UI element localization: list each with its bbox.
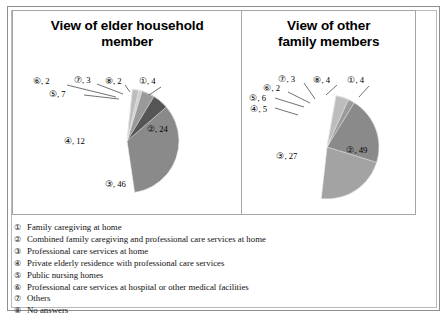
pie-chart-right: ⑦, 3 ⑧, 4 ①, 4 ⑥, 2 ⑤, 6 ④, 5 ②, 49 ③, 2… xyxy=(242,11,415,214)
pie-svg-right xyxy=(242,11,415,216)
legend-item: ⑦Others xyxy=(14,293,414,304)
chart-panel-elder-household: View of elder household member ⑥, 2 ⑦, 3… xyxy=(13,11,242,214)
legend-item-label: Professional care services at home xyxy=(27,246,414,256)
callout-right-5: ④, 5 xyxy=(250,105,267,114)
legend-item-number: ③ xyxy=(14,247,27,257)
callout-left-4: ⑤, 7 xyxy=(49,90,66,99)
legend-item-label: Combined family caregiving and professio… xyxy=(27,234,414,244)
legend-item: ③Professional care services at home xyxy=(14,246,414,257)
legend-item-number: ④ xyxy=(14,259,27,269)
callout-right-4: ⑤, 6 xyxy=(249,94,266,103)
legend-item-label: Family caregiving at home xyxy=(27,222,414,232)
legend-item: ①Family caregiving at home xyxy=(14,222,414,233)
inner-left-0: ②, 24 xyxy=(147,125,168,134)
legend-item-label: Professional care services at hospital o… xyxy=(27,282,414,292)
legend-item-number: ② xyxy=(14,235,27,245)
callout-left-1: ⑦, 3 xyxy=(74,76,91,85)
legend-item: ④Private elderly residence with professi… xyxy=(14,258,414,269)
legend-item: ⑥Professional care services at hospital … xyxy=(14,282,414,293)
legend-item-number: ⑤ xyxy=(14,271,27,281)
callout-right-3: ⑥, 2 xyxy=(263,84,280,93)
legend-item-number: ⑦ xyxy=(14,294,27,304)
legend-item-number: ⑥ xyxy=(14,283,27,293)
legend: ①Family caregiving at home②Combined fami… xyxy=(14,222,414,317)
legend-item-number: ① xyxy=(14,223,27,233)
callout-right-2: ①, 4 xyxy=(347,76,364,85)
callout-left-0: ⑥, 2 xyxy=(33,77,50,86)
legend-item: ⑧No answers xyxy=(14,305,414,316)
legend-item-label: No answers xyxy=(27,305,414,315)
chart-panel-other-family: View of other family members ⑦, 3 ⑧, 4 ①… xyxy=(242,11,415,214)
callout-left-2: ⑧, 2 xyxy=(105,77,122,86)
callout-right-0: ⑦, 3 xyxy=(278,75,295,84)
callout-left-3: ①, 4 xyxy=(139,77,156,86)
legend-item-number: ⑧ xyxy=(14,306,27,316)
inner-left-2: ③, 46 xyxy=(105,180,126,189)
charts-container: View of elder household member ⑥, 2 ⑦, 3… xyxy=(12,10,416,215)
legend-item-label: Public nursing homes xyxy=(27,270,414,280)
legend-item: ⑤Public nursing homes xyxy=(14,270,414,281)
legend-item: ②Combined family caregiving and professi… xyxy=(14,234,414,245)
pie-chart-left: ⑥, 2 ⑦, 3 ⑧, 2 ①, 4 ⑤, 7 ②, 24 ④, 12 ③, … xyxy=(13,11,241,214)
legend-item-label: Others xyxy=(27,293,414,303)
callout-right-1: ⑧, 4 xyxy=(313,76,330,85)
inner-right-0: ②, 49 xyxy=(346,146,367,155)
inner-right-1: ③, 27 xyxy=(276,152,297,161)
legend-item-label: Private elderly residence with professio… xyxy=(27,258,414,268)
inner-left-1: ④, 12 xyxy=(64,137,85,146)
pie-svg-left xyxy=(13,11,243,216)
